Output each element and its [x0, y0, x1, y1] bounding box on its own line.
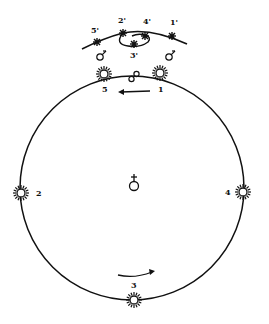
sun-icon-4 [235, 184, 251, 200]
sun-orbit-circle [20, 76, 244, 300]
earth-icon [130, 174, 139, 191]
arrow-left-icon [118, 89, 150, 95]
sun-icon-5 [96, 66, 112, 82]
mars-position-1prime [168, 32, 176, 40]
mars-position-4prime [141, 32, 149, 40]
sun-label-1: 1 [158, 84, 164, 94]
mars-position-5prime [93, 38, 101, 46]
sun-icon-1 [152, 65, 168, 81]
mars-position-3prime [130, 40, 138, 48]
mars-icon-1 [166, 51, 175, 60]
mars-label-3prime: 3' [130, 50, 138, 60]
retrograde-diagram: 1 2 3 4 5 5' 2' 3' 4' 1' [0, 0, 269, 324]
mars-label-1prime: 1' [170, 17, 178, 27]
sun-label-2: 2 [36, 188, 42, 198]
sun-label-5: 5 [102, 84, 108, 94]
sun-icon-2 [13, 185, 29, 201]
opposition-icon [129, 71, 139, 81]
mars-label-2prime: 2' [118, 15, 126, 25]
sun-label-4: 4 [225, 187, 231, 197]
mars-label-4prime: 4' [143, 16, 151, 26]
sun-label-3: 3 [131, 280, 137, 290]
sun-icon-3 [126, 292, 142, 308]
arrow-right-icon [118, 269, 155, 276]
mars-position-2prime [119, 29, 127, 37]
mars-label-5prime: 5' [91, 25, 99, 35]
mars-icon-5 [97, 51, 106, 60]
